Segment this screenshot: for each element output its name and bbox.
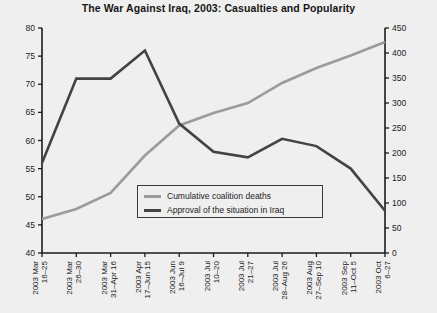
y-axis-left-tick-label: 60 <box>26 136 36 146</box>
x-axis-tick-label: 2003 Apr <box>134 261 143 293</box>
y-axis-left-tick-label: 75 <box>26 51 36 61</box>
y-axis-right-tick-label: 100 <box>392 198 406 208</box>
x-axis-tick-label: 26–30 <box>74 260 83 283</box>
x-axis-tick-label: 2003 Jul <box>203 261 212 291</box>
y-axis-right-tick-label: 350 <box>392 73 406 83</box>
chart-plot-area: 4045505560657075800501001502002503003504… <box>0 0 437 313</box>
x-axis-tick-label: 2003 Mar <box>31 261 40 295</box>
x-axis-tick-label: 2003 Mar <box>100 261 109 295</box>
y-axis-right-tick-label: 400 <box>392 48 406 58</box>
x-axis-tick-label: 2003 Mar <box>65 261 74 295</box>
y-axis-left-tick-label: 65 <box>26 107 36 117</box>
legend-label-approval-of-the-situation-in-iraq: Approval of the situation in Iraq <box>167 205 284 215</box>
x-axis-tick-label: 10–20 <box>212 260 221 283</box>
y-axis-right-tick-label: 0 <box>392 248 397 258</box>
x-axis-tick-label: 6–27 <box>383 260 392 278</box>
legend-item-cumulative-coalition-deaths: Cumulative coalition deaths <box>144 189 316 203</box>
y-axis-right-tick-label: 150 <box>392 173 406 183</box>
y-axis-left-tick-label: 80 <box>26 23 36 33</box>
x-tick-labels-group: 2003 Mar16–252003 Mar26–302003 Mar31–Apr… <box>31 260 392 299</box>
y-axis-right-tick-label: 200 <box>392 148 406 158</box>
y-axis-right-tick-label: 50 <box>392 223 402 233</box>
legend-swatch-icon-dark <box>144 209 161 212</box>
legend-label-cumulative-coalition-deaths: Cumulative coalition deaths <box>167 191 271 201</box>
x-axis-tick-label: 2003 Jul <box>237 261 246 291</box>
y-axis-left-tick-label: 50 <box>26 192 36 202</box>
x-axis-tick-label: 2003 Jul <box>271 261 280 291</box>
y-axis-left-tick-label: 55 <box>26 164 36 174</box>
axes-group: 4045505560657075800501001502002503003504… <box>26 23 407 258</box>
y-axis-left-tick-label: 70 <box>26 79 36 89</box>
y-axis-right-tick-label: 300 <box>392 98 406 108</box>
x-axis-tick-label: 28–Aug 26 <box>280 260 289 299</box>
x-axis-tick-label: 31–Apr 16 <box>109 260 118 297</box>
chart-legend: Cumulative coalition deaths Approval of … <box>137 185 323 218</box>
y-axis-left-tick-label: 45 <box>26 220 36 230</box>
legend-swatch-icon-gray <box>144 195 161 198</box>
y-axis-right-tick-label: 250 <box>392 123 406 133</box>
chart-container: The War Against Iraq, 2003: Casualties a… <box>0 0 437 313</box>
x-axis-tick-label: 11–Oct 5 <box>349 260 358 292</box>
x-axis-tick-label: 27–Sep 10 <box>314 260 323 299</box>
y-axis-right-tick-label: 450 <box>392 23 406 33</box>
legend-item-approval-of-the-situation-in-iraq: Approval of the situation in Iraq <box>144 203 316 217</box>
x-axis-tick-label: 2003 Aug <box>305 261 314 295</box>
x-axis-tick-label: 16–Jul 9 <box>177 260 186 291</box>
x-axis-tick-label: 21–27 <box>246 260 255 283</box>
y-axis-left-tick-label: 40 <box>26 248 36 258</box>
x-axis-tick-label: 2003 Sep <box>340 260 349 295</box>
x-axis-tick-label: 16–25 <box>40 260 49 283</box>
x-axis-tick-label: 2003 Jun <box>168 261 177 294</box>
x-axis-tick-label: 2003 Oct <box>374 260 383 293</box>
x-axis-tick-label: 17–Jun 15 <box>143 260 152 298</box>
